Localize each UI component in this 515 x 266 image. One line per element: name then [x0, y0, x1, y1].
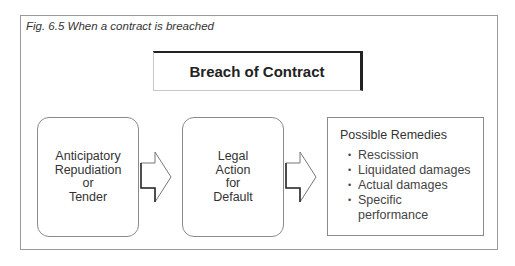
bullet-icon: • [348, 178, 351, 193]
remedy-label: Actual damages [358, 178, 448, 192]
remedy-label: Specific performance [358, 193, 428, 222]
remedies-list: •Rescission •Liquidated damages •Actual … [340, 148, 483, 223]
stage-box-legal-action: Legal Action for Default [182, 117, 284, 237]
figure-caption: Fig. 6.5 When a contract is breached [26, 20, 214, 32]
bullet-icon: • [348, 163, 351, 178]
stage-label: Anticipatory Repudiation or Tender [55, 150, 122, 204]
remedies-title: Possible Remedies [340, 128, 483, 142]
remedy-item: •Rescission [348, 148, 483, 163]
stage-box-anticipatory-repudiation: Anticipatory Repudiation or Tender [37, 117, 139, 237]
right-arrow-icon [140, 151, 172, 203]
right-arrow-icon [285, 151, 317, 203]
stage-label: Legal Action for Default [213, 150, 253, 204]
remedy-label: Rescission [358, 148, 418, 162]
remedy-item: •Liquidated damages [348, 163, 483, 178]
title-box: Breach of Contract [153, 51, 363, 91]
remedy-item: •Specific performance [348, 193, 483, 223]
remedy-label: Liquidated damages [358, 163, 471, 177]
diagram-title: Breach of Contract [189, 63, 324, 80]
bullet-icon: • [348, 193, 351, 208]
remedy-item: •Actual damages [348, 178, 483, 193]
bullet-icon: • [348, 148, 351, 163]
remedies-box: Possible Remedies •Rescission •Liquidate… [327, 117, 484, 236]
